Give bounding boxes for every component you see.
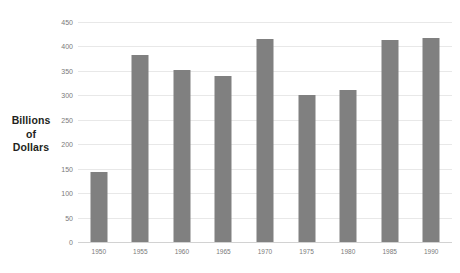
bar[interactable] [215,76,232,242]
bar-group[interactable]: 1985 [369,22,411,242]
y-axis-tick-label: 250 [61,116,73,123]
x-axis-tick-label: 1990 [424,248,438,255]
bar-group[interactable]: 1960 [161,22,203,242]
bar-chart-figure: Billions of Dollars 05010015020025030035… [0,0,460,273]
bar-group[interactable]: 1975 [286,22,328,242]
y-axis-title-line-2: of [2,128,60,142]
x-axis-tick-label: 1950 [92,248,106,255]
x-axis-tick-label: 1955 [133,248,147,255]
x-axis-tick-label: 1985 [382,248,396,255]
bar-group[interactable]: 1980 [327,22,369,242]
bar-group[interactable]: 1950 [78,22,120,242]
bar-group[interactable]: 1970 [244,22,286,242]
bar[interactable] [132,55,149,242]
y-axis-title-line-3: Dollars [2,141,60,155]
y-axis-tick-label: 300 [61,92,73,99]
bar-group[interactable]: 1955 [120,22,162,242]
plot-area: 050100150200250300350400450 195019551960… [78,22,452,242]
x-axis-tick-label: 1980 [341,248,355,255]
y-axis-title: Billions of Dollars [2,114,60,155]
y-axis-tick-label: 150 [61,165,73,172]
bar[interactable] [298,95,315,242]
y-axis-tick-label: 0 [69,239,73,246]
bar-group[interactable]: 1990 [410,22,452,242]
x-axis-tick-label: 1975 [299,248,313,255]
bar[interactable] [423,38,440,242]
bar[interactable] [173,70,190,242]
bar-group[interactable]: 1965 [203,22,245,242]
bar[interactable] [256,39,273,242]
y-axis-tick-label: 350 [61,67,73,74]
x-axis-tick-label: 1965 [216,248,230,255]
bar[interactable] [90,172,107,242]
y-axis-title-line-1: Billions [2,114,60,128]
y-axis-tick-label: 450 [61,19,73,26]
y-axis-tick-label: 50 [65,214,73,221]
bar[interactable] [381,40,398,242]
x-axis-line: 0 [78,242,452,243]
x-axis-tick-label: 1970 [258,248,272,255]
y-axis-tick-label: 100 [61,190,73,197]
bars-layer: 195019551960196519701975198019851990 [78,22,452,242]
bar[interactable] [340,90,357,242]
x-axis-tick-label: 1960 [175,248,189,255]
y-axis-tick-label: 400 [61,43,73,50]
y-axis-tick-label: 200 [61,141,73,148]
